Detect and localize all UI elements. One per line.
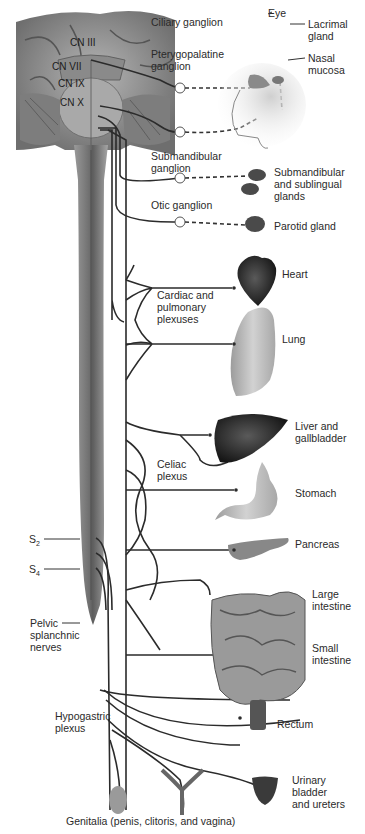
leader-lines (0, 0, 365, 834)
parasympathetic-diagram: CN III CN VII CN IX CN X Ciliary ganglio… (0, 0, 365, 834)
pelvic-splanchnic-nerves-label: Pelvic splanchnic nerves (30, 617, 80, 653)
